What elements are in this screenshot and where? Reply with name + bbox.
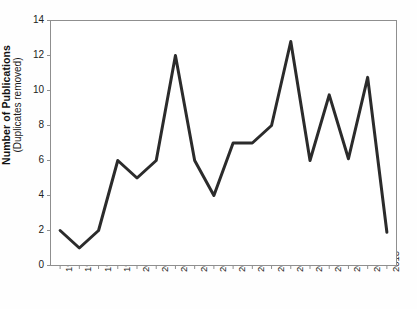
publications-line-chart: Number of Publications (Duplicates remov… xyxy=(0,0,417,309)
plot-area xyxy=(0,0,417,309)
x-axis-ticks xyxy=(60,266,387,270)
y-axis-ticks xyxy=(47,21,51,266)
